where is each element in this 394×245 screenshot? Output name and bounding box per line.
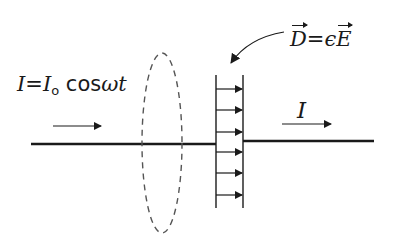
wire [31,141,374,144]
amplitude-subscript: o [51,83,59,98]
amplitude-symbol: I [43,72,51,96]
displacement-equation: D=ϵE [290,27,352,51]
capacitor-plates [216,75,243,208]
equals-sign: = [307,27,325,51]
omega-t: ωt [101,72,127,96]
e-vector: E [336,27,351,51]
current-equation: I=Io cosωt [17,72,127,98]
d-vector: D [290,27,307,51]
cos-function: cos [59,72,101,96]
equals-sign: = [25,72,43,96]
pointer-arrow [231,32,284,63]
field-arrows [216,89,242,195]
epsilon-symbol: ϵ [324,27,336,51]
current-label-right: I [297,97,306,123]
